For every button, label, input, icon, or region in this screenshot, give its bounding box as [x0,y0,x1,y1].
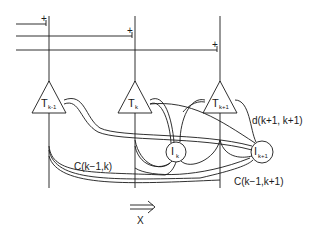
input-marker-3: + [212,39,218,50]
neuron-t-k-minus-1: T k-1 [32,81,66,113]
interneuron-i-k-plus-1: I k+1 [251,141,273,163]
direction-arrow-icon [130,201,155,213]
direction-label: X [137,215,144,226]
svg-text:k+1: k+1 [258,153,269,159]
label-c-k-1-k1: C(k−1,k+1) [234,176,283,187]
svg-text:T: T [128,97,135,109]
svg-text:k+1: k+1 [219,104,230,110]
svg-text:I: I [254,145,257,157]
svg-text:k: k [176,153,180,159]
svg-text:T: T [41,97,48,109]
svg-text:T: T [212,97,219,109]
label-d-k1-k1: d(k+1, k+1) [252,115,303,126]
neuron-t-k-plus-1: T k+1 [203,81,237,113]
neural-circuit-diagram: + + + T k-1 T k T k+1 I k I k+1 [0,0,323,234]
input-marker-1: + [41,13,47,24]
svg-text:k: k [135,104,139,110]
neuron-t-k: T k [118,81,152,113]
interneuron-i-k: I k [166,142,186,162]
input-marker-2: + [127,25,133,36]
label-c-k-1-k: C(k−1,k) [74,161,112,172]
svg-text:I: I [171,145,174,157]
input-lines: + + + [16,13,218,52]
svg-text:k-1: k-1 [48,104,57,110]
